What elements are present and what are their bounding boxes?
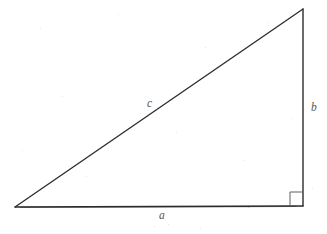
side-label-c: c bbox=[147, 98, 152, 110]
right-triangle-diagram: c a b bbox=[0, 0, 327, 234]
triangle-drawing bbox=[0, 0, 327, 234]
side-label-a: a bbox=[159, 210, 165, 222]
hypotenuse-side-c bbox=[15, 9, 303, 207]
right-angle-marker bbox=[290, 192, 303, 205]
side-label-b: b bbox=[311, 102, 317, 114]
